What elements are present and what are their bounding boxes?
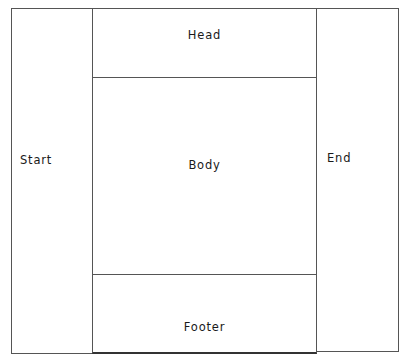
head-label: Head	[93, 28, 316, 42]
end-region: End	[316, 8, 399, 352]
body-region: Body	[92, 77, 317, 275]
head-region: Head	[92, 8, 317, 78]
end-label: End	[327, 151, 351, 165]
footer-label: Footer	[93, 320, 316, 334]
start-label: Start	[20, 153, 52, 167]
body-label: Body	[93, 158, 316, 172]
footer-region: Footer	[92, 274, 317, 354]
start-region: Start	[11, 8, 93, 354]
